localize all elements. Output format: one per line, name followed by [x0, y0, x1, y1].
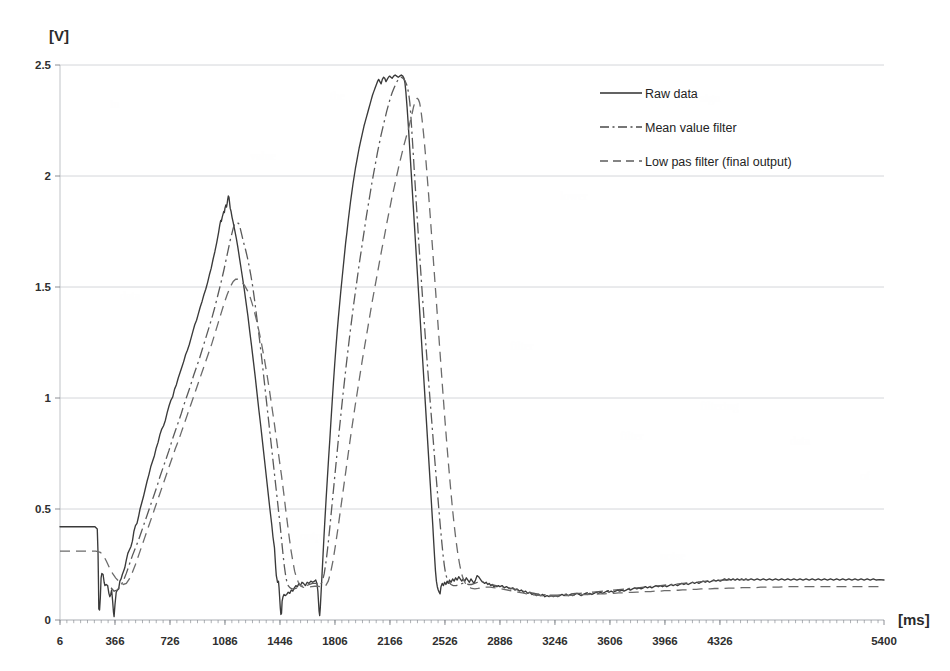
scan-artifact-text: noise: [660, 549, 685, 563]
scan-artifact-text: of: [860, 469, 870, 483]
scan-artifact-text: sign: [700, 91, 720, 105]
chart-background: [0, 0, 950, 671]
scan-artifact-text: in: [110, 97, 119, 111]
x-tick-label: 1446: [267, 635, 293, 647]
scan-artifact-text: output: [300, 529, 331, 543]
y-axis-unit-label: [V]: [49, 27, 69, 44]
signal-filtering-chart: inthesignvaluelowerdatafilterfilteringfi…: [0, 0, 950, 671]
y-tick-label: 1: [45, 392, 52, 404]
x-axis-unit-label: [ms]: [898, 611, 930, 628]
legend-label-1: Mean value filter: [645, 121, 737, 135]
scan-artifact-text: the: [330, 89, 345, 103]
y-tick-label: 1.5: [35, 281, 52, 293]
x-tick-label: 3606: [597, 635, 623, 647]
scan-artifact-text: filter: [510, 339, 533, 353]
x-tick-label: 2886: [487, 635, 513, 647]
scan-artifact-text: lower: [560, 189, 587, 203]
x-tick-label: 5400: [871, 635, 897, 647]
y-tick-label: 0.5: [35, 503, 52, 515]
x-tick-label: 1086: [212, 635, 238, 647]
x-tick-label: 1806: [322, 635, 348, 647]
y-tick-label: 0: [45, 614, 51, 626]
x-tick-label: 2166: [377, 635, 403, 647]
legend-label-2: Low pas filter (final output): [645, 155, 792, 169]
scan-artifact-text: filter: [620, 429, 643, 443]
scan-artifact-text: data: [790, 434, 811, 448]
x-tick-label: 3966: [652, 635, 678, 647]
x-tick-label: 3246: [542, 635, 568, 647]
x-tick-label: 2526: [432, 635, 458, 647]
scan-artifact-text: data: [120, 289, 141, 303]
x-tick-label: 4326: [707, 635, 733, 647]
x-tick-label: 366: [105, 635, 124, 647]
y-tick-label: 2: [45, 170, 51, 182]
legend-label-0: Raw data: [645, 87, 698, 101]
scan-artifact-text: value: [250, 149, 276, 163]
x-tick-label: 6: [57, 635, 63, 647]
scan-artifact-text: filtering: [700, 399, 739, 413]
y-tick-label: 2.5: [35, 59, 52, 71]
x-tick-label: 726: [160, 635, 179, 647]
